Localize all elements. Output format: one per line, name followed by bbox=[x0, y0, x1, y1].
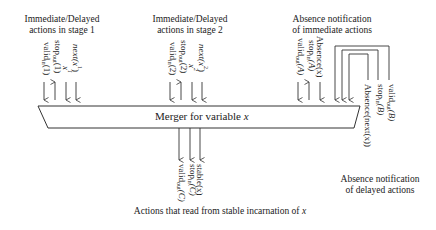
stable-reader-arrows bbox=[179, 128, 200, 160]
absence-delayed-stop-in-label: stopin(B) bbox=[373, 84, 386, 115]
stage1-next-label: next(x1) bbox=[71, 44, 85, 72]
stable-readers-caption-var: x bbox=[302, 206, 306, 216]
stage2-arrows bbox=[170, 82, 202, 100]
stable-readers-caption: Actions that read from stable incarnatio… bbox=[110, 206, 330, 217]
stage2-caption-line2: actions in stage 2 bbox=[140, 25, 240, 36]
absence-delayed-valid-out-label: validout(B) bbox=[384, 84, 397, 121]
stage2-caption: Immediate/Delayed actions in stage 2 bbox=[140, 14, 240, 36]
stable-readers-caption-text: Actions that read from stable incarnatio… bbox=[134, 206, 302, 216]
absence-delayed-absence-label: Absence(next(x)) bbox=[363, 84, 373, 147]
stable-x-label: stable(x) bbox=[195, 164, 205, 196]
merger-label-text: Merger for variable bbox=[155, 110, 244, 122]
absence-delayed-caption: Absence notification of delayed actions bbox=[330, 174, 430, 196]
stage1-caption-line2: actions in stage 1 bbox=[12, 25, 112, 36]
stage1-caption: Immediate/Delayed actions in stage 1 bbox=[12, 14, 112, 36]
absence-immediate-caption: Absence notification of immediate action… bbox=[282, 14, 382, 36]
stage2-caption-line1: Immediate/Delayed bbox=[140, 14, 240, 25]
merger-var: x bbox=[244, 110, 249, 122]
stage2-next-label: next(x2) bbox=[197, 44, 211, 72]
absence-immediate-caption-line1: Absence notification bbox=[282, 14, 382, 25]
absence-delayed-caption-line1: Absence notification bbox=[330, 174, 430, 185]
absence-delayed-caption-line2: of delayed actions bbox=[330, 185, 430, 196]
absence-immediate-absence-label: Absence(x) bbox=[315, 36, 325, 77]
stage1-arrows bbox=[44, 82, 76, 100]
stage1-caption-line1: Immediate/Delayed bbox=[12, 14, 112, 25]
merger-label: Merger for variable x bbox=[155, 110, 249, 122]
absence-immediate-arrows bbox=[298, 82, 320, 100]
absence-immediate-caption-line2: of immediate actions bbox=[282, 25, 382, 36]
